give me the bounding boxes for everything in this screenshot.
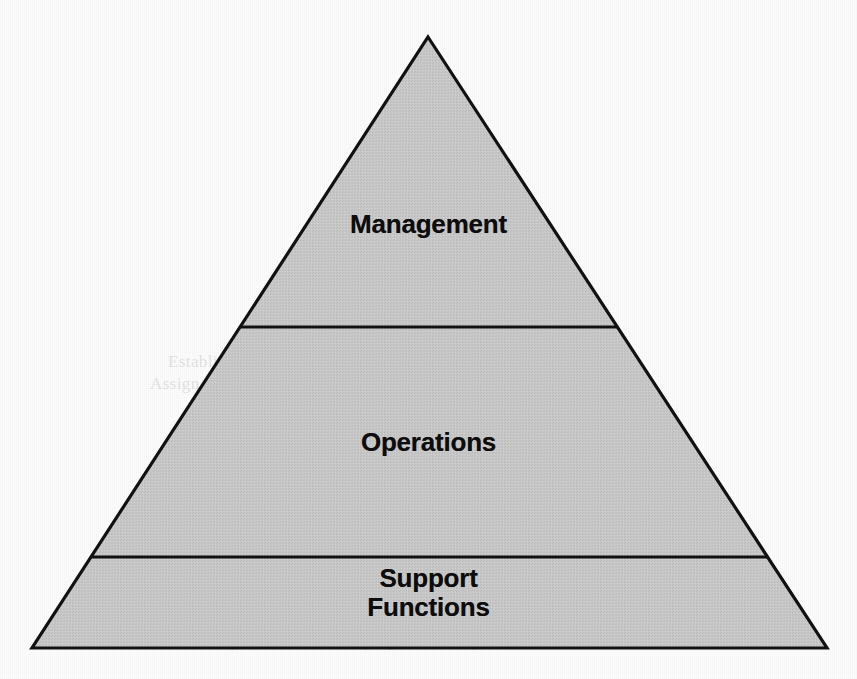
tier-label-management: Management (0, 210, 857, 239)
tier-label-support-functions: Support Functions (0, 564, 857, 622)
figure-canvas: Establish the program and plan for its i… (0, 0, 857, 679)
tier-label-operations: Operations (0, 428, 857, 457)
